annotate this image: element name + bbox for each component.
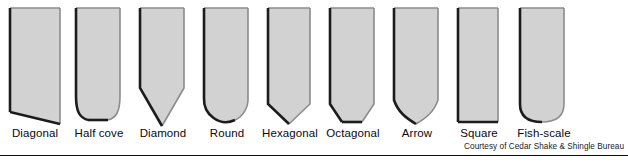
label-row: Diagonal Half cove Diamond Round Hexagon… — [0, 126, 628, 142]
square-icon — [456, 0, 504, 132]
bottom-rule — [0, 155, 628, 156]
shingle-butt-shapes-figure: Diagonal Half cove Diamond Round Hexagon… — [0, 0, 628, 164]
arrow-icon — [392, 0, 444, 132]
octagonal-icon — [328, 0, 380, 132]
round-icon — [202, 0, 254, 132]
shape-square — [456, 0, 500, 132]
shape-hexagonal — [266, 0, 312, 132]
label-diamond: Diamond — [132, 126, 194, 140]
label-fish-scale: Fish-scale — [512, 126, 576, 140]
label-diagonal: Diagonal — [4, 126, 66, 140]
shape-diamond — [138, 0, 186, 132]
fish-scale-icon — [518, 0, 570, 132]
shape-round — [202, 0, 250, 132]
shape-octagonal — [328, 0, 376, 132]
shape-half-cove — [74, 0, 122, 132]
label-hexagonal: Hexagonal — [258, 126, 322, 140]
label-square: Square — [448, 126, 510, 140]
shape-diagonal — [8, 0, 60, 132]
credit-text: Courtesy of Cedar Shake & Shingle Bureau — [464, 142, 624, 152]
label-half-cove: Half cove — [68, 126, 130, 140]
label-arrow: Arrow — [386, 126, 448, 140]
label-round: Round — [196, 126, 258, 140]
diagonal-icon — [8, 0, 64, 132]
diamond-icon — [138, 0, 190, 132]
label-octagonal: Octagonal — [322, 126, 384, 140]
shape-fish-scale — [518, 0, 566, 132]
hexagonal-icon — [266, 0, 316, 132]
shape-arrow — [392, 0, 440, 132]
shape-row — [0, 0, 628, 132]
half-cove-icon — [74, 0, 126, 132]
